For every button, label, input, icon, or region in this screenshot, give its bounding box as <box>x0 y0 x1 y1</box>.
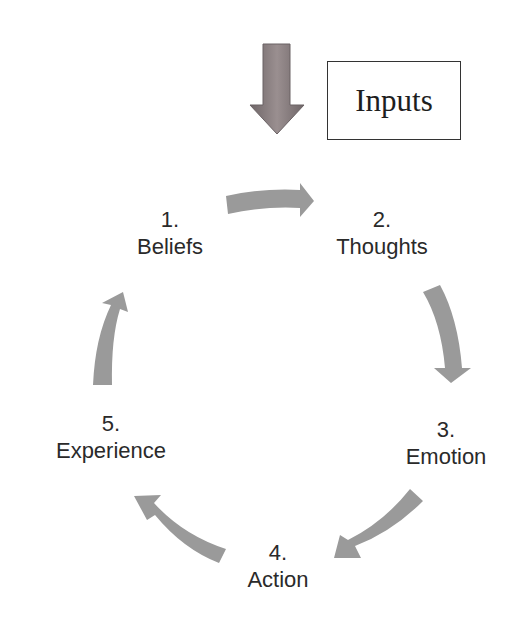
step-label: Action <box>230 566 326 593</box>
step-experience: 5. Experience <box>36 410 186 464</box>
step-number: 4. <box>230 539 326 566</box>
step-number: 1. <box>120 206 220 233</box>
arrow-action-to-experience-icon <box>134 495 226 563</box>
arrow-experience-to-beliefs-icon <box>93 292 128 385</box>
step-label: Thoughts <box>320 233 444 260</box>
step-number: 3. <box>390 416 502 443</box>
arrow-thoughts-to-emotion-icon <box>423 285 471 383</box>
step-label: Experience <box>36 437 186 464</box>
arrow-beliefs-to-thoughts-icon <box>226 183 314 217</box>
arrow-emotion-to-action-icon <box>334 489 423 558</box>
inputs-box: Inputs <box>327 61 461 140</box>
step-thoughts: 2. Thoughts <box>320 206 444 260</box>
step-label: Emotion <box>390 443 502 470</box>
step-label: Beliefs <box>120 233 220 260</box>
step-number: 2. <box>320 206 444 233</box>
step-emotion: 3. Emotion <box>390 416 502 470</box>
step-number: 5. <box>36 410 186 437</box>
step-beliefs: 1. Beliefs <box>120 206 220 260</box>
cycle-diagram: Inputs 1. Beliefs 2. Thoughts 3. Emotion… <box>0 0 524 629</box>
input-down-arrow-icon <box>250 44 304 134</box>
inputs-label: Inputs <box>355 83 433 119</box>
step-action: 4. Action <box>230 539 326 593</box>
